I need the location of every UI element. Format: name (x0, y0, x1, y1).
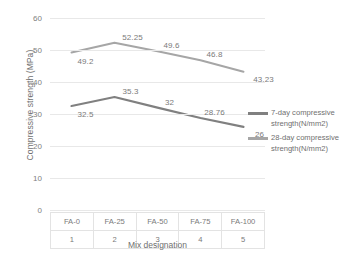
x-axis-category-cell: FA-25 (93, 213, 136, 231)
y-axis-tick: 50 (33, 46, 42, 55)
data-label: 49.2 (78, 56, 94, 65)
y-axis-tick: 60 (33, 14, 42, 23)
y-axis-tick: 30 (33, 110, 42, 119)
data-label: 32 (165, 97, 174, 106)
chart-legend: 7-day compressive strength(N/mm2) 28-day… (248, 108, 358, 158)
gridline (50, 18, 265, 19)
data-label: 35.3 (123, 87, 139, 96)
data-label: 28.76 (204, 107, 225, 116)
legend-item-7day[interactable]: 7-day compressive strength(N/mm2) (248, 108, 358, 129)
data-label: 52.25 (122, 32, 143, 41)
x-axis-title: Mix designation (50, 240, 265, 250)
x-axis-category-cell: FA-100 (222, 213, 265, 231)
legend-swatch-7day (248, 112, 268, 115)
y-axis-tick: 0 (38, 206, 42, 215)
table-row-categories: FA-0FA-25FA-50FA-75FA-100 (51, 213, 265, 231)
y-axis-tick: 20 (33, 142, 42, 151)
plot-area: 32.535.33228.762649.252.2549.646.843.23 (50, 18, 265, 210)
gridline (50, 210, 265, 211)
y-axis-tick: 40 (33, 78, 42, 87)
y-axis-tick: 10 (33, 174, 42, 183)
line-chart: Compressive strength (MPa) 0102030405060… (0, 0, 361, 273)
x-axis-category-cell: FA-50 (136, 213, 179, 231)
gridline (50, 178, 265, 179)
x-axis-category-cell: FA-75 (179, 213, 222, 231)
y-axis-tick-labels: 0102030405060 (0, 0, 46, 273)
legend-label-28day: 28-day compressive strength(N/mm2) (271, 133, 357, 154)
data-label: 46.8 (207, 50, 223, 59)
gridline (50, 82, 265, 83)
legend-label-7day: 7-day compressive strength(N/mm2) (271, 108, 357, 129)
data-label: 32.5 (78, 110, 94, 119)
data-label: 49.6 (164, 41, 180, 50)
data-label: 43.23 (253, 74, 274, 83)
legend-item-28day[interactable]: 28-day compressive strength(N/mm2) (248, 133, 358, 154)
legend-swatch-28day (248, 137, 268, 140)
gridline (50, 50, 265, 51)
x-axis-category-cell: FA-0 (51, 213, 94, 231)
gridline (50, 146, 265, 147)
